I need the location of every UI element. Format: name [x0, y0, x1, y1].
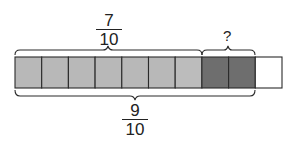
bar-cell-light — [175, 57, 202, 88]
denominator: 10 — [122, 119, 148, 138]
bar-cell-light — [42, 57, 69, 88]
bar-cell-light — [15, 57, 42, 88]
bottom-brace-nine-tenths — [15, 90, 255, 100]
numerator: 7 — [96, 12, 122, 29]
bar-cell-dark — [202, 57, 229, 88]
unknown-label: ? — [223, 27, 231, 44]
bar-cell-light — [149, 57, 176, 88]
fraction-seven-tenths: 7 10 — [96, 12, 122, 48]
bar-model — [0, 0, 302, 145]
bar-cell-light — [95, 57, 122, 88]
top-brace-unknown — [202, 46, 255, 55]
bar-cell-dark — [229, 57, 256, 88]
fraction-nine-tenths: 9 10 — [122, 102, 148, 138]
bar-cell-light — [122, 57, 149, 88]
bar-cells — [15, 57, 282, 88]
bar-cell-empty — [255, 57, 282, 88]
denominator: 10 — [96, 29, 122, 48]
numerator: 9 — [122, 102, 148, 119]
bar-cell-light — [68, 57, 95, 88]
